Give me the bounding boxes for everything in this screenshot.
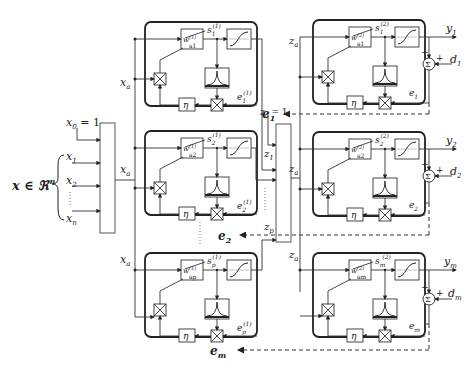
weight-sub: a2 <box>189 151 197 158</box>
minus-sign: − <box>421 282 429 292</box>
plus-sign: + <box>436 165 444 175</box>
input-xn-label: xn <box>66 212 77 227</box>
sum-symbol: Σ <box>425 60 431 69</box>
y1-label: y1 <box>445 22 457 37</box>
dm-label: dm <box>448 287 462 302</box>
za-label-bottom: za <box>288 249 298 263</box>
d1-label: d1 <box>450 53 462 68</box>
hidden-neuron-1: w(1) a1 s1(1) e1(1) η <box>145 22 257 111</box>
hidden-neuron-p: w(1) ap sp(1) ep(1) η <box>145 253 257 342</box>
minus-sign: − <box>421 47 429 57</box>
z1-label: z1 <box>263 148 274 162</box>
weight-sub: a1 <box>189 42 196 49</box>
weight-sub: a1 <box>357 40 364 47</box>
d2-label: d2 <box>450 165 462 180</box>
zp-label: zp <box>263 221 274 235</box>
eta-label: η <box>183 331 189 341</box>
e2-feedback-label: e2 <box>218 229 232 245</box>
plus-sign: + <box>436 53 444 63</box>
za-label-top: za <box>288 35 298 49</box>
middle-bus <box>276 124 291 242</box>
weight-sub: a2 <box>357 152 365 159</box>
neural-network-diagram: x ∈ ℜn x0 = 1 x1 x2 xn xa xa xa w(1) a1 … <box>0 0 476 375</box>
bias-input-label: x0 = 1 <box>66 116 100 131</box>
y2-label: y2 <box>445 134 457 149</box>
weight-sub: am <box>357 273 367 280</box>
sum-symbol: Σ <box>425 172 431 181</box>
output-neuron-m: w(2) am sm(2) em η <box>313 253 425 342</box>
input-x1-label: x1 <box>66 150 77 165</box>
sum-symbol: Σ <box>425 295 431 304</box>
eta-label: η <box>351 210 357 220</box>
input-x2-label: x2 <box>66 174 77 189</box>
hidden-neuron-2: w(1) a2 s2(1) e2(1) η <box>145 131 257 220</box>
xa-label-bottom: xa <box>120 253 130 268</box>
input-bus <box>100 123 115 233</box>
output-neuron-1: w(2) a1 s1(2) e1 η <box>313 20 425 109</box>
em-feedback-label: em <box>210 344 226 360</box>
eta-label: η <box>351 331 357 341</box>
eta-label: η <box>183 209 189 219</box>
ym-label: ym <box>443 255 457 270</box>
eta-label: η <box>351 98 357 108</box>
weight-sub: ap <box>189 273 197 281</box>
plus-sign: + <box>436 288 444 298</box>
brace <box>52 155 64 220</box>
xa-label-mid: xa <box>120 163 130 178</box>
xa-label-top: xa <box>120 76 130 91</box>
minus-sign: − <box>421 159 429 169</box>
eta-label: η <box>183 100 189 110</box>
output-neuron-2: w(2) a2 s2(2) e2 η <box>313 132 425 221</box>
input-set-label: x ∈ ℜn <box>11 176 55 193</box>
